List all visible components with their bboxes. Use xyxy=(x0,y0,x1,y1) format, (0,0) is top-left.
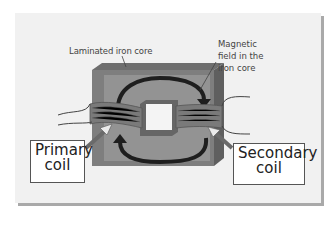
primary-wire-top xyxy=(58,104,90,115)
label-field-line-2: field in the xyxy=(218,51,263,61)
label-field-line-1: Magnetic xyxy=(218,39,257,49)
secondary-line-2: coil xyxy=(238,161,300,176)
secondary-coil xyxy=(176,105,222,129)
primary-wire-bottom xyxy=(58,122,92,125)
core-top-face xyxy=(92,63,224,70)
label-magnetic-field: Magnetic field in the iron core xyxy=(218,38,263,74)
label-laminated-iron-core: Laminated iron core xyxy=(69,46,152,56)
label-field-line-3: iron core xyxy=(218,63,255,73)
core-window xyxy=(146,104,172,130)
label-primary-coil: Primary coil xyxy=(30,140,85,183)
secondary-wire-top xyxy=(222,97,250,106)
primary-line-2: coil xyxy=(35,158,80,173)
label-secondary-coil: Secondary coil xyxy=(233,143,305,185)
secondary-wire-bottom xyxy=(222,126,250,134)
